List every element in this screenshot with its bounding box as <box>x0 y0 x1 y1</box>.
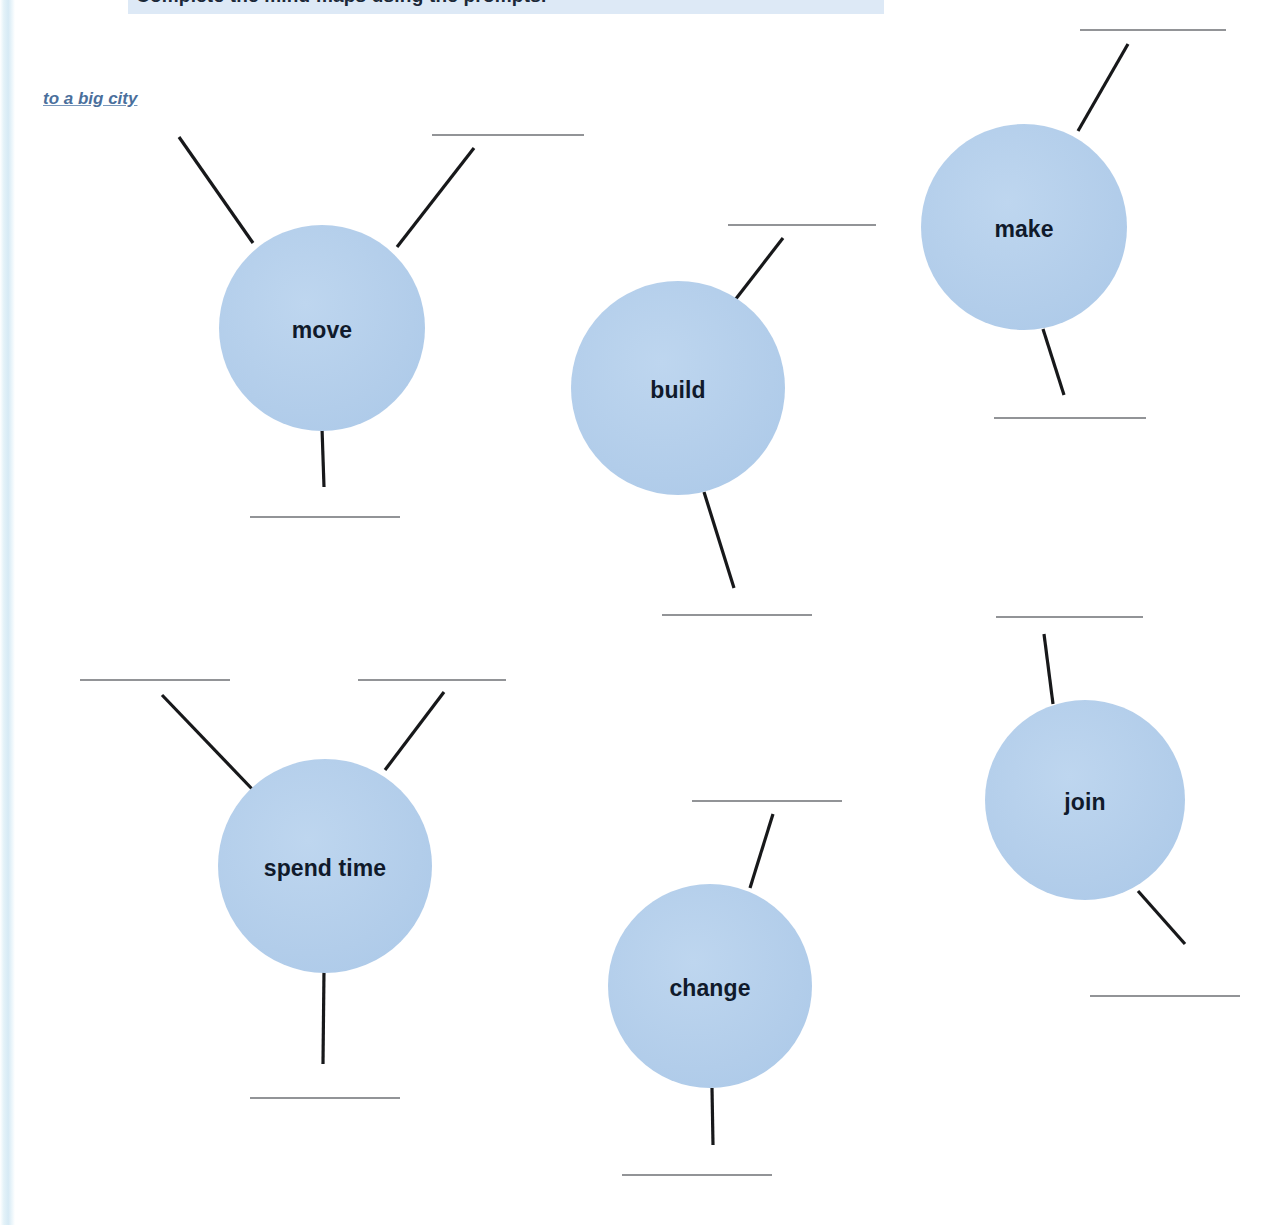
connector-spend-time-upper-right <box>385 692 444 770</box>
verb-bubble-label: change <box>669 975 750 1002</box>
connector-change-bottom <box>712 1088 713 1145</box>
connector-join-bottom-right <box>1138 891 1185 944</box>
connector-build-bottom-right <box>704 492 734 588</box>
verb-bubble-make[interactable]: make <box>921 124 1127 330</box>
connector-move-upper-left <box>179 137 253 243</box>
connector-move-bottom <box>322 428 324 487</box>
verb-bubble-label: join <box>1064 789 1105 816</box>
connector-make-bottom <box>1043 329 1064 395</box>
connector-spend-time-bottom <box>323 969 324 1064</box>
verb-bubble-build[interactable]: build <box>571 281 785 495</box>
verb-bubble-label: build <box>650 377 705 404</box>
instruction-banner-text: Complete the mind maps using the prompts… <box>136 0 546 7</box>
verb-bubble-label: make <box>994 216 1053 243</box>
connector-move-upper-right <box>397 148 474 247</box>
connector-join-upper-left <box>1044 634 1053 704</box>
connector-make-upper-right <box>1078 44 1128 131</box>
connector-build-upper-right <box>735 238 783 300</box>
verb-bubble-label: spend time <box>264 855 386 882</box>
left-edge-accent-strip <box>0 0 15 1225</box>
worksheet-page: Complete the mind maps using the prompts… <box>0 0 1280 1225</box>
instruction-banner: Complete the mind maps using the prompts… <box>128 0 884 14</box>
example-answer-hint: to a big city <box>43 89 137 109</box>
verb-bubble-change[interactable]: change <box>608 884 812 1088</box>
verb-bubble-join[interactable]: join <box>985 700 1185 900</box>
verb-bubble-label: move <box>292 317 352 344</box>
verb-bubble-move[interactable]: move <box>219 225 425 431</box>
verb-bubble-spend-time[interactable]: spend time <box>218 759 432 973</box>
connector-spend-time-upper-left <box>162 695 254 791</box>
connector-change-upper-right <box>750 814 773 888</box>
